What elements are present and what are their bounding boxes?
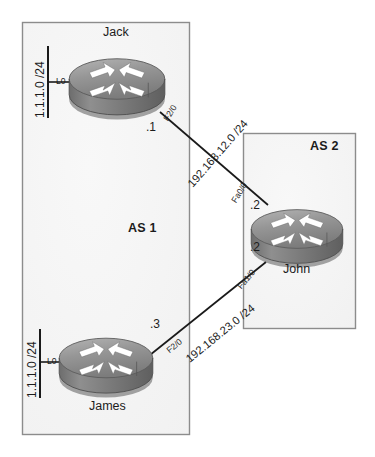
router-icon-james[interactable] bbox=[59, 338, 153, 397]
router-icon-jack[interactable] bbox=[69, 59, 165, 120]
router-label-john: John bbox=[283, 263, 310, 276]
james-loopback-interface: L0 bbox=[47, 357, 57, 366]
as2-label: AS 2 bbox=[310, 140, 339, 153]
jack-link-address: .1 bbox=[146, 121, 156, 133]
router-icon-john[interactable] bbox=[251, 210, 343, 268]
james-loopback-network: 1.1.1.0 /24 bbox=[26, 341, 38, 398]
jack-loopback-network: 1.1.1.0 /24 bbox=[34, 61, 46, 118]
router-label-james: James bbox=[89, 400, 126, 413]
james-link-address: .3 bbox=[150, 318, 160, 330]
router-label-jack: Jack bbox=[103, 26, 129, 39]
jack-loopback-interface: L0 bbox=[56, 77, 66, 86]
as1-label: AS 1 bbox=[128, 222, 157, 235]
network-diagram-canvas: AS 1 AS 2 Jack James John 1.1.1.0 /24 L0… bbox=[0, 0, 375, 457]
john-fa1-address: .2 bbox=[250, 241, 260, 253]
diagram-graphics bbox=[0, 0, 375, 457]
john-fa0-address: .2 bbox=[250, 199, 260, 211]
